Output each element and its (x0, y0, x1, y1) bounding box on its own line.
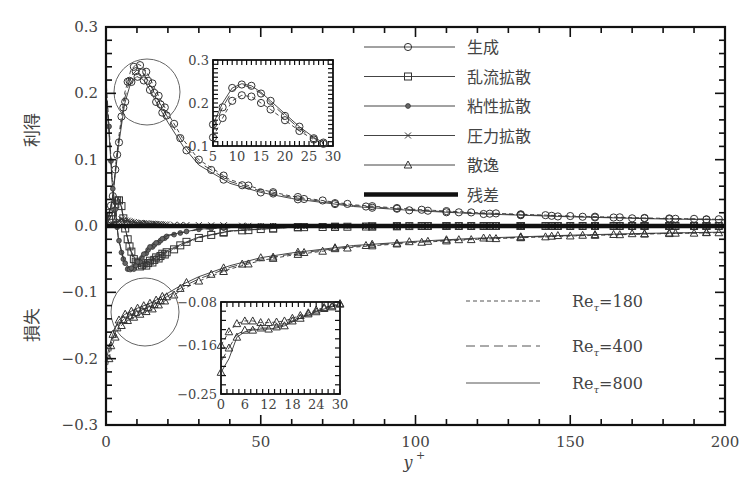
y-tick-label: −0.2 (62, 350, 98, 368)
y-tick-label: 0.0 (74, 217, 98, 235)
legend-label: 粘性拡散 (467, 97, 531, 116)
legend-item-3: 圧力拡散 (364, 127, 531, 146)
legend-label: 生成 (467, 38, 499, 57)
legend-re-item-0: Reτ=180 (466, 292, 643, 313)
inset-x-tick-label: 24 (308, 397, 325, 412)
inset-dissipation: 0612182430−0.08−0.16−0.25 (177, 295, 348, 412)
data-point-dot-marker (110, 186, 115, 191)
inset-x-tick-label: 5 (209, 149, 217, 164)
inset-x-tick-label: 18 (284, 397, 301, 412)
data-point-triangle-marker (183, 279, 191, 286)
y-axis-labels: 利得 損失 (22, 113, 42, 342)
legend-item-1: 乱流拡散 (364, 68, 531, 87)
data-point-triangle-marker (554, 232, 562, 239)
inset-x-tick-label: 15 (253, 149, 270, 164)
legend-label: 乱流拡散 (467, 68, 531, 87)
legend-dot-dot-marker (406, 104, 411, 109)
x-tick-label: 150 (556, 433, 585, 451)
inset-production: 510152025300.30.20.1 (188, 53, 341, 164)
inset-y-tick-label: 0.3 (188, 53, 209, 68)
x-tick-label: 200 (711, 433, 740, 451)
inset-x-tick-label: 12 (260, 397, 277, 412)
data-point-dot-marker (135, 259, 140, 264)
legend-re-item-1: Reτ=400 (466, 337, 643, 358)
inset-y-tick-label: 0.2 (188, 96, 209, 111)
y-tick-label: −0.3 (62, 416, 98, 434)
data-point-dot-marker (160, 236, 165, 241)
data-point-dot-marker (148, 245, 153, 250)
series-1 (106, 196, 725, 270)
legend-item-5: 残差 (364, 186, 499, 205)
legend-item-2: 粘性拡散 (364, 97, 531, 116)
inset-y-tick-label: −0.25 (177, 387, 217, 402)
data-point-dot-marker (141, 252, 146, 257)
legend-re-item-2: Reτ=800 (466, 374, 643, 395)
inset-frame (221, 302, 340, 394)
data-point-dot-marker (123, 261, 128, 266)
ylabel-gain: 利得 (22, 113, 42, 147)
inset-x-tick-label: 30 (325, 149, 342, 164)
legend-reynolds: Reτ=180Reτ=400Reτ=800 (466, 292, 643, 395)
inset-y-tick-label: −0.08 (177, 295, 217, 310)
y-tick-label: 0.2 (74, 84, 98, 102)
y-tick-label: 0.3 (74, 18, 98, 36)
y-tick-label: −0.1 (62, 283, 98, 301)
data-point-dot-marker (154, 240, 159, 245)
inset-y-tick-label: −0.16 (177, 338, 217, 353)
data-point-dot-marker (129, 266, 134, 271)
data-point-dot-marker (117, 238, 122, 243)
inset-y-tick-label: 0.1 (188, 139, 209, 154)
x-axis-label: y + (402, 449, 425, 472)
x-tick-label: 0 (101, 433, 111, 451)
legend-re-label: Reτ=800 (572, 374, 643, 395)
legend-re-label: Reτ=400 (572, 337, 643, 358)
legend-re-label: Reτ=180 (572, 292, 643, 313)
xlabel-y: y (402, 453, 413, 472)
ylabel-loss: 損失 (22, 308, 42, 342)
inset-x-tick-label: 0 (217, 397, 225, 412)
data-point-dot-marker (184, 229, 189, 234)
chart-figure: 0501001502000.30.20.10.0−0.1−0.2−0.3 利得 … (0, 0, 752, 498)
inset-x-tick-label: 30 (332, 397, 349, 412)
xlabel-plus: + (416, 449, 425, 462)
inset-x-tick-label: 20 (277, 149, 294, 164)
x-tick-label: 50 (251, 433, 270, 451)
legend-label: 圧力拡散 (467, 127, 531, 146)
inset-x-tick-label: 10 (229, 149, 246, 164)
legend-label: 残差 (467, 186, 499, 205)
legend-label: 散逸 (467, 156, 499, 175)
inset-x-tick-label: 25 (301, 149, 318, 164)
legend-terms: 生成乱流拡散粘性拡散圧力拡散散逸残差 (364, 38, 531, 205)
inset-x-tick-label: 6 (241, 397, 249, 412)
legend-item-0: 生成 (364, 38, 499, 57)
legend-item-4: 散逸 (364, 156, 499, 175)
y-tick-label: 0.1 (74, 151, 98, 169)
